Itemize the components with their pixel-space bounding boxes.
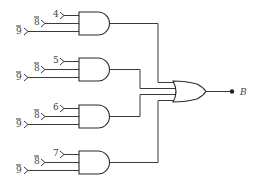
input-label-9-bar: 9 — [16, 26, 22, 36]
output-node-dot — [230, 89, 234, 93]
input-arrow-icon — [41, 20, 45, 27]
input-label-6: 6 — [53, 102, 59, 112]
input-arrow-icon — [60, 58, 64, 65]
input-label-8-bar: 8 — [34, 156, 40, 166]
input-label-4: 4 — [53, 9, 59, 19]
and-gate-1: 4 8 9 — [16, 9, 110, 36]
input-arrow-icon — [60, 151, 64, 158]
input-label-9-bar: 9 — [16, 165, 22, 175]
and-gate-2: 5 8 9 — [16, 55, 110, 82]
input-arrow-icon — [41, 159, 45, 166]
input-arrow-icon — [60, 105, 64, 112]
logic-diagram: 4 8 9 5 8 9 6 8 9 — [0, 0, 256, 187]
input-label-9-bar: 9 — [16, 119, 22, 129]
input-arrow-icon — [24, 28, 28, 35]
and-gate-3: 6 8 9 — [16, 102, 110, 129]
output-label: B — [239, 87, 247, 97]
input-arrow-icon — [24, 74, 28, 81]
or-gate: B — [173, 81, 247, 102]
input-arrow-icon — [24, 121, 28, 128]
input-label-8-bar: 8 — [34, 17, 40, 27]
input-label-8-bar: 8 — [34, 110, 40, 120]
input-label-5: 5 — [53, 55, 59, 65]
input-arrow-icon — [24, 167, 28, 174]
and-gate-4: 7 8 9 — [16, 148, 110, 175]
input-arrow-icon — [41, 113, 45, 120]
interconnect-wires — [110, 24, 178, 163]
input-arrow-icon — [60, 12, 64, 19]
input-arrow-icon — [41, 66, 45, 73]
input-label-9-bar: 9 — [16, 72, 22, 82]
input-label-7: 7 — [53, 148, 59, 158]
input-label-8-bar: 8 — [34, 63, 40, 73]
